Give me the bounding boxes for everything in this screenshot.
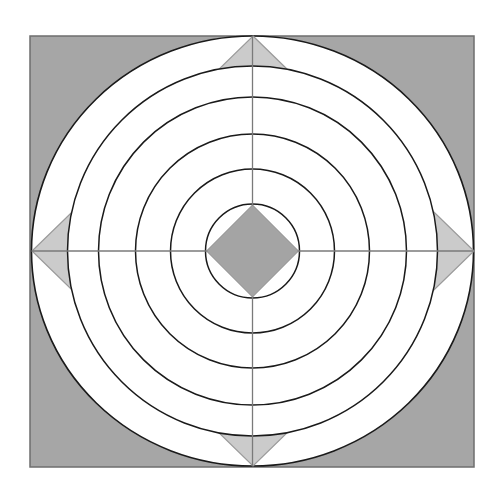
concentric-diamond-diagram: [0, 0, 504, 495]
